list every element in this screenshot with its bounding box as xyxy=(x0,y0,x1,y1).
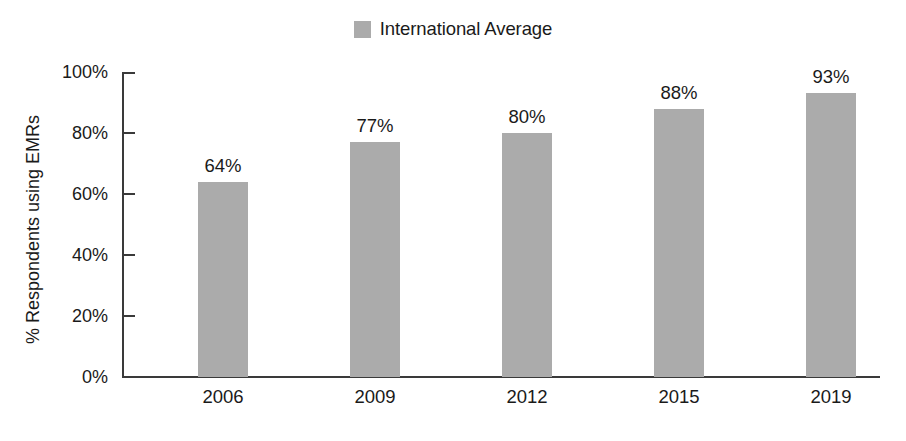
x-tick-label-2019: 2019 xyxy=(810,386,851,408)
bar-2019[interactable] xyxy=(806,93,856,377)
bar-value-label-2006: 64% xyxy=(204,157,241,176)
bar-chart: International Average % Respondents usin… xyxy=(0,0,906,441)
y-tick-label-60: 60% xyxy=(34,184,108,205)
y-tick-label-40: 40% xyxy=(34,245,108,266)
y-tick-label-80: 80% xyxy=(34,123,108,144)
bar-2015[interactable] xyxy=(654,109,704,377)
y-axis-tick-labels: 0% 20% 40% 60% 80% 100% xyxy=(34,72,108,377)
bar-value-label-2012: 80% xyxy=(508,108,545,127)
y-tick-label-20: 20% xyxy=(34,306,108,327)
x-tick-label-2009: 2009 xyxy=(354,386,395,408)
x-tick-label-2006: 2006 xyxy=(202,386,243,408)
bar-2012[interactable] xyxy=(502,133,552,377)
bar-2006[interactable] xyxy=(198,182,248,377)
y-tick-label-100: 100% xyxy=(34,62,108,83)
bar-slot-2015: 88% xyxy=(603,72,755,377)
x-tick-label-2015: 2015 xyxy=(658,386,699,408)
y-tick-label-0: 0% xyxy=(34,367,108,388)
legend-label-international-average: International Average xyxy=(380,20,552,39)
x-tick-label-2012: 2012 xyxy=(506,386,547,408)
bars-layer: 64% 77% 80% 88% 93% xyxy=(122,72,880,377)
bar-slot-2012: 80% xyxy=(451,72,603,377)
bar-value-label-2015: 88% xyxy=(660,84,697,103)
bar-value-label-2019: 93% xyxy=(812,68,849,87)
x-axis-tick-labels: 2006 2009 2012 2015 2019 xyxy=(122,386,880,416)
bar-slot-2006: 64% xyxy=(147,72,299,377)
legend-swatch-international-average xyxy=(354,21,371,38)
bar-slot-2019: 93% xyxy=(755,72,906,377)
bar-slot-2009: 77% xyxy=(299,72,451,377)
plot-area: 64% 77% 80% 88% 93% xyxy=(122,72,880,377)
bar-2009[interactable] xyxy=(350,142,400,377)
chart-legend: International Average xyxy=(0,20,906,39)
bar-value-label-2009: 77% xyxy=(356,117,393,136)
